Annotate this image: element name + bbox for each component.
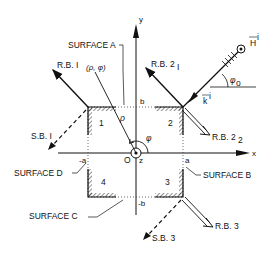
- incident-wave: [183, 50, 256, 107]
- bound-neg-b-label: -b: [138, 199, 146, 208]
- bound-a-label: a: [185, 156, 190, 165]
- y-axis: [133, 24, 139, 215]
- reflected-beam-1: [53, 70, 88, 107]
- rb2-1-subscript: I: [177, 62, 179, 72]
- sb1-label: S.B. I: [31, 131, 52, 141]
- k-vector-label: k: [203, 96, 208, 106]
- x-axis-arrow-icon: [236, 150, 250, 156]
- y-axis-label: y: [139, 15, 143, 24]
- rb2-1-label: R.B. 2: [151, 59, 175, 69]
- point-coords-label: (ρ, φ): [86, 63, 106, 72]
- k-vector-superscript: i: [209, 91, 211, 101]
- phi0-arc: [222, 74, 228, 87]
- shadow-boundary-1: [52, 110, 86, 146]
- y-axis-arrow-icon: [133, 24, 139, 38]
- wedge-label-1: 1: [99, 118, 104, 128]
- scattering-geometry-diagram: x y 1 2 3 4 b -b -a a O z: [0, 0, 273, 256]
- wedge-label-4: 4: [101, 177, 106, 187]
- bound-b-label: b: [140, 97, 145, 106]
- surface-d-label: SURFACE D: [14, 168, 63, 178]
- x-axis: [58, 150, 250, 156]
- surface-c-label: SURFACE C: [29, 211, 78, 221]
- reflected-beam-2-2: [183, 108, 210, 135]
- sb3-label: S.B. 3: [152, 233, 175, 243]
- wedge-label-2: 2: [168, 118, 173, 128]
- phi-label: φ: [146, 133, 152, 143]
- h-field-superscript: i: [257, 32, 259, 42]
- surface-b-label: SURFACE B: [203, 170, 252, 180]
- shadow-boundary-3: [148, 200, 181, 235]
- rb2-2-label: R.B. 2: [212, 132, 236, 142]
- z-axis-label: z: [139, 156, 143, 165]
- rb3-label: R.B. 3: [215, 221, 239, 231]
- reflected-beam-2-1: [146, 68, 183, 107]
- h-field-label: H: [250, 38, 256, 48]
- surface-a-label: SURFACE A: [68, 40, 116, 50]
- wedge-label-3: 3: [165, 177, 170, 187]
- reflected-beam-3: [182, 197, 213, 227]
- rb1-label: R.B. I: [57, 60, 78, 70]
- rho-label: ρ: [119, 113, 125, 123]
- x-axis-label: x: [252, 149, 256, 158]
- rb2-2-subscript: 2: [238, 135, 243, 145]
- phi0-subscript: o: [236, 78, 241, 88]
- origin-label: O: [124, 155, 131, 165]
